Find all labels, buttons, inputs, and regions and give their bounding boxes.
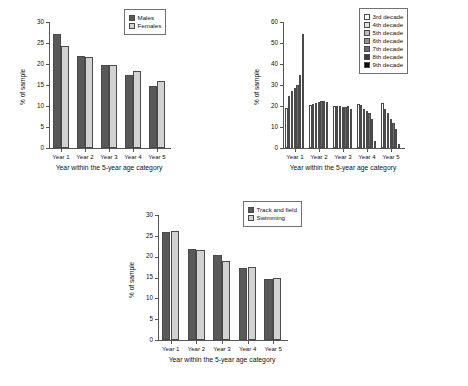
bar-males-year-2 (77, 56, 85, 148)
legend-item[interactable]: 9th decade (364, 62, 403, 69)
y-axis-title: % of sample (253, 69, 260, 105)
x-axis-title: Year within the 5-year age category (49, 164, 169, 171)
x-axis-line (49, 148, 171, 149)
bar-9th-decade-year-5 (398, 144, 400, 148)
x-axis-tick (273, 341, 274, 344)
x-axis-tick-label: Year 5 (371, 153, 411, 160)
legend-label: 7th decade (373, 46, 404, 53)
x-axis-tick (109, 149, 110, 152)
bar-9th-decade-year-2 (326, 102, 328, 148)
bar-males-year-4 (125, 75, 133, 148)
legend-swatch-2 (248, 215, 254, 221)
chart-panel-sex: 051015202530Year 1Year 2Year 3Year 4Year… (0, 0, 234, 193)
legend-label: 6th decade (373, 38, 404, 45)
bar-9th-decade-year-1 (302, 34, 304, 148)
bar-females-year-1 (61, 46, 69, 148)
x-axis-tick (171, 341, 172, 344)
bar-9th-decade-year-4 (374, 141, 376, 148)
y-axis-tick-label: 5 (132, 316, 153, 322)
y-axis-tick-label: 30 (257, 82, 278, 88)
y-axis-title: % of sample (128, 261, 135, 297)
y-axis-tick (155, 257, 158, 258)
x-axis-tick (133, 149, 134, 152)
chart-panel-decade: 0102030405060Year 1Year 2Year 3Year 4Yea… (234, 0, 468, 193)
bar-swimming-year-1 (171, 231, 179, 340)
x-axis-line (158, 340, 288, 341)
bar-track-and-field-year-3 (213, 255, 221, 340)
y-axis-tick (155, 340, 158, 341)
y-axis-tick (46, 148, 49, 149)
legend-swatch-2 (364, 22, 370, 28)
legend-swatch-5 (364, 46, 370, 52)
legend-item[interactable]: 7th decade (364, 46, 403, 53)
y-axis-tick-label: 20 (23, 61, 44, 67)
bar-females-year-4 (133, 71, 141, 148)
bar-track-and-field-year-4 (239, 268, 247, 340)
legend-item[interactable]: Track and field (248, 207, 297, 214)
bar-swimming-year-4 (248, 267, 256, 340)
bar-males-year-3 (101, 65, 109, 148)
legend-item[interactable]: Swimming (248, 215, 297, 222)
legend-label: 9th decade (373, 62, 404, 69)
legend-label: 8th decade (373, 54, 404, 61)
y-axis-tick-label: 10 (132, 295, 153, 301)
legend-label: 3rd decade (373, 14, 404, 21)
y-axis-tick-label: 0 (132, 337, 153, 343)
legend-label: Track and field (257, 207, 297, 214)
chart-panel-sport: 051015202530Year 1Year 2Year 3Year 4Year… (106, 195, 362, 386)
bar-males-year-1 (53, 34, 61, 148)
x-axis-tick (85, 149, 86, 152)
legend-swatch-1 (364, 14, 370, 20)
legend-item[interactable]: 3rd decade (364, 14, 403, 21)
legend-item[interactable]: Males (129, 15, 161, 22)
y-axis-tick-label: 15 (23, 82, 44, 88)
y-axis-tick (46, 22, 49, 23)
y-axis-tick (46, 43, 49, 44)
y-axis-tick-label: 15 (132, 274, 153, 280)
x-axis-tick (61, 149, 62, 152)
legend-item[interactable]: 8th decade (364, 54, 403, 61)
bar-swimming-year-3 (222, 261, 230, 340)
x-axis-tick (367, 149, 368, 152)
y-axis-line (158, 215, 159, 341)
y-axis-tick (155, 319, 158, 320)
y-axis-tick (280, 85, 283, 86)
legend-swatch-6 (364, 54, 370, 60)
legend-item[interactable]: 5th decade (364, 30, 403, 37)
x-axis-tick-label: Year 5 (137, 153, 177, 160)
legend-label: 4th decade (373, 22, 404, 29)
y-axis-tick-label: 30 (23, 19, 44, 25)
x-axis-tick (157, 149, 158, 152)
legend-swatch-1 (129, 15, 135, 21)
legend-label: 5th decade (373, 30, 404, 37)
y-axis-tick-label: 40 (257, 61, 278, 67)
y-axis-tick (280, 148, 283, 149)
y-axis-tick-label: 30 (132, 212, 153, 218)
legend-swatch-3 (364, 30, 370, 36)
legend-label: Males (138, 15, 155, 22)
x-axis-tick (391, 149, 392, 152)
legend-swatch-2 (129, 23, 135, 29)
y-axis-line (49, 22, 50, 149)
x-axis-tick (248, 341, 249, 344)
legend-item[interactable]: 6th decade (364, 38, 403, 45)
y-axis-tick (280, 127, 283, 128)
y-axis-tick-label: 10 (23, 103, 44, 109)
bar-track-and-field-year-2 (188, 249, 196, 340)
y-axis-tick (155, 215, 158, 216)
x-axis-tick (222, 341, 223, 344)
y-axis-tick (280, 106, 283, 107)
x-axis-tick (196, 341, 197, 344)
y-axis-tick-label: 10 (257, 124, 278, 130)
chart-legend: 3rd decade4th decade5th decade6th decade… (359, 8, 408, 74)
legend-item[interactable]: 4th decade (364, 22, 403, 29)
legend-item[interactable]: Females (129, 23, 161, 30)
y-axis-tick-label: 60 (257, 19, 278, 25)
legend-label: Females (138, 23, 162, 30)
y-axis-tick-label: 5 (23, 124, 44, 130)
y-axis-tick (46, 85, 49, 86)
y-axis-tick (46, 106, 49, 107)
chart-legend: Track and fieldSwimming (243, 201, 302, 227)
bar-track-and-field-year-1 (162, 232, 170, 340)
bar-females-year-3 (109, 65, 117, 148)
